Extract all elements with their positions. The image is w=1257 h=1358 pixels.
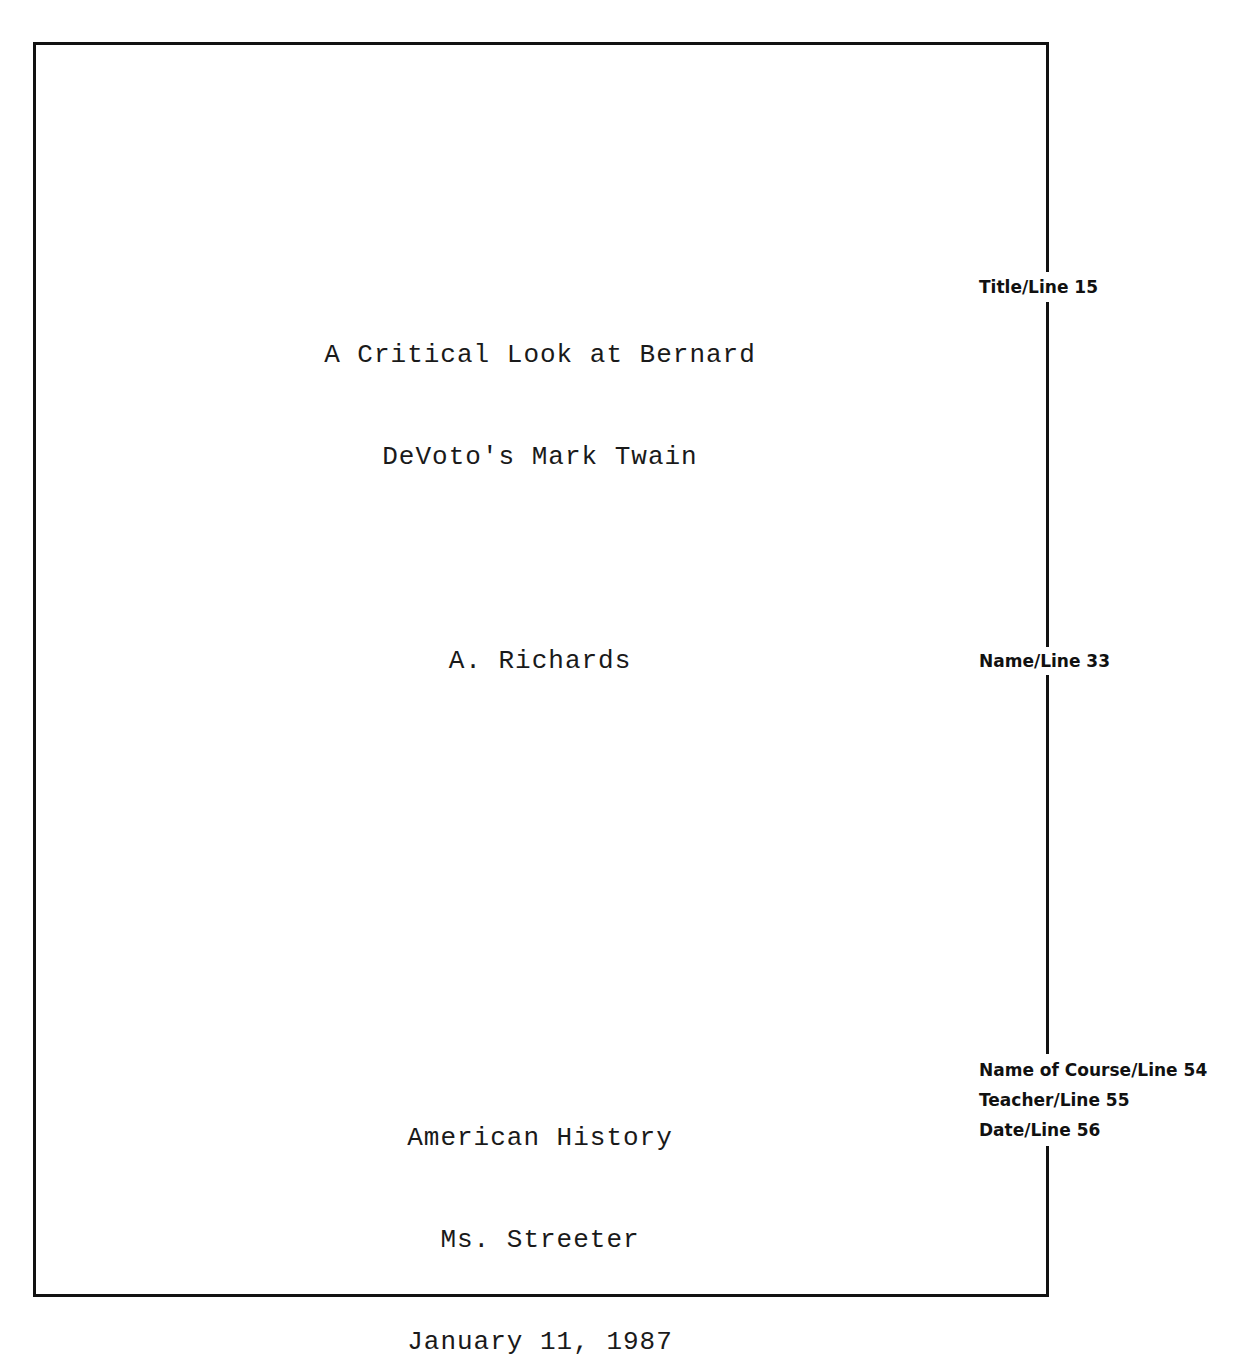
frame-right-border-segment xyxy=(1046,1146,1049,1297)
teacher-name: Ms. Streeter xyxy=(280,1223,800,1257)
annotation-title: Title/Line 15 xyxy=(979,274,1098,301)
paper-title-line-2: DeVoto's Mark Twain xyxy=(280,440,800,474)
paper-title-line-1: A Critical Look at Bernard xyxy=(280,338,800,372)
paper-title: A Critical Look at Bernard DeVoto's Mark… xyxy=(280,270,800,542)
annotation-course: Name of Course/Line 54 xyxy=(979,1057,1207,1084)
submission-date: January 11, 1987 xyxy=(280,1325,800,1358)
frame-top-border xyxy=(33,42,1049,45)
frame-right-border-segment xyxy=(1046,674,1049,1054)
frame-right-border-segment xyxy=(1046,302,1049,647)
course-name: American History xyxy=(280,1121,800,1155)
course-info: American History Ms. Streeter January 11… xyxy=(280,1053,800,1358)
frame-right-border-segment xyxy=(1046,42,1049,272)
author-name: A. Richards xyxy=(280,644,800,678)
annotation-teacher: Teacher/Line 55 xyxy=(979,1087,1130,1114)
frame-left-border xyxy=(33,42,36,1297)
annotation-name: Name/Line 33 xyxy=(979,648,1110,675)
annotation-date: Date/Line 56 xyxy=(979,1117,1100,1144)
